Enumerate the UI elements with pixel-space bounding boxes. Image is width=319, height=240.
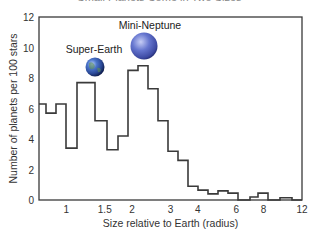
histogram-line bbox=[39, 66, 302, 200]
y-tick-label: 2 bbox=[28, 165, 34, 176]
x-tick-label: 8 bbox=[261, 204, 267, 215]
histogram-plot: 024681012 11.52346812 Size relative to E… bbox=[0, 0, 319, 240]
x-axis-label: Size relative to Earth (radius) bbox=[103, 217, 238, 229]
chart-title: Small Planets Come in Two Sizes bbox=[0, 0, 319, 3]
y-tick-label: 4 bbox=[28, 134, 34, 145]
y-axis: 024681012 bbox=[23, 12, 35, 206]
x-tick-label: 12 bbox=[296, 204, 308, 215]
neptune-planet-icon bbox=[131, 33, 158, 60]
x-tick-label: 6 bbox=[233, 204, 239, 215]
x-tick-label: 2 bbox=[129, 204, 135, 215]
y-tick-label: 12 bbox=[23, 12, 35, 23]
y-tick-label: 6 bbox=[28, 104, 34, 115]
x-tick-label: 1.5 bbox=[98, 204, 112, 215]
y-tick-label: 0 bbox=[28, 195, 34, 206]
y-axis-label: Number of planets per 100 stars bbox=[7, 34, 19, 184]
super-earth-label: Super-Earth bbox=[66, 43, 123, 55]
x-tick-label: 4 bbox=[195, 204, 201, 215]
planet-annotations: Super-EarthMini-Neptune bbox=[66, 19, 182, 77]
mini-neptune-label: Mini-Neptune bbox=[119, 19, 182, 31]
x-tick-label: 3 bbox=[168, 204, 174, 215]
x-tick-label: 1 bbox=[64, 204, 70, 215]
histogram-steps bbox=[39, 66, 302, 200]
chart-container: Small Planets Come in Two Sizes 02468101… bbox=[0, 0, 319, 240]
x-axis: 11.52346812 bbox=[64, 204, 308, 215]
earth-planet-icon bbox=[86, 58, 105, 77]
y-tick-label: 10 bbox=[23, 43, 35, 54]
y-tick-label: 8 bbox=[28, 73, 34, 84]
